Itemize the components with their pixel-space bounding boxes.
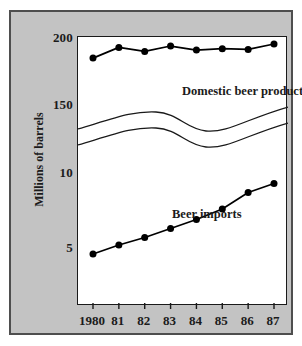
domestic-beer-production-point	[245, 46, 252, 53]
plot-area: Domestic beer production Beer imports	[77, 36, 287, 305]
y-axis-tick-label-10: 10	[35, 166, 73, 179]
domestic-beer-production-point	[271, 41, 278, 48]
y-axis-tick-label-200: 200	[35, 31, 73, 44]
plot-graphics	[78, 37, 288, 306]
beer-imports-point	[90, 251, 97, 258]
x-axis-tick-label: 84	[189, 314, 202, 327]
axis-break-wavy-lines	[78, 107, 288, 147]
x-axis-ticks	[77, 303, 289, 312]
domestic-beer-production-point	[193, 47, 200, 54]
domestic-beer-production-point	[219, 45, 226, 52]
domestic-beer-production-point	[167, 43, 174, 50]
x-axis-tick-label: 86	[241, 314, 254, 327]
beer-imports-point	[115, 242, 122, 249]
beer-imports-point	[167, 225, 174, 232]
domestic-beer-production-point	[115, 44, 122, 51]
axis-break-line-upper	[78, 107, 288, 131]
series-domestic-beer-production	[90, 41, 278, 62]
x-axis-tick-label: 82	[137, 314, 150, 327]
chart-figure: Millions of barrels 200 150 10 5 Domesti…	[0, 0, 302, 346]
y-axis-tick-label-5: 5	[35, 241, 73, 254]
domestic-beer-production-point	[90, 55, 97, 62]
x-axis-labels: 198081828384858687	[77, 314, 287, 332]
chart-panel: Millions of barrels 200 150 10 5 Domesti…	[9, 10, 293, 335]
x-axis-tick-label: 81	[111, 314, 124, 327]
x-axis-tick-label: 87	[267, 314, 280, 327]
y-axis-tick-label-150: 150	[35, 98, 73, 111]
series-label-domestic-beer-production: Domestic beer production	[182, 84, 302, 99]
beer-imports-point	[245, 189, 252, 196]
beer-imports-point	[271, 180, 278, 187]
series-label-beer-imports: Beer imports	[172, 207, 242, 222]
x-axis-tick-label: 83	[163, 314, 176, 327]
domestic-beer-production-point	[141, 48, 148, 55]
x-axis-tick-label: 1980	[79, 314, 105, 327]
x-axis-tick-label: 85	[215, 314, 228, 327]
beer-imports-point	[141, 234, 148, 241]
axis-break-line-lower	[78, 123, 288, 147]
